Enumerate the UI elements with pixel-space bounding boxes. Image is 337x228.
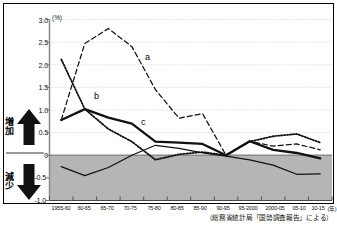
population-growth-rate-chart: (%) 3.0 2.5 2.0 1.5 1.0 0.5 0 -0.5 -1.0 … [0,0,337,228]
chart-plot-area [0,0,337,228]
series-line-b [61,59,320,159]
data-series-group [61,29,320,176]
negative-shaded-region [50,155,333,200]
